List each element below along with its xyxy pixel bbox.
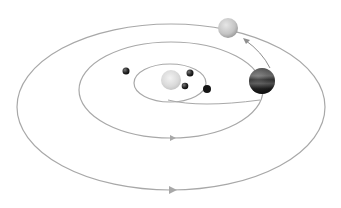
outer-planet-icon [218, 18, 238, 38]
middle-orbit-arrow-icon [170, 135, 176, 141]
planet-inner-bottom-icon [182, 83, 189, 90]
jupiter-shading [249, 68, 275, 94]
sun-icon [161, 70, 181, 90]
outer-orbit-arrow-icon [169, 186, 177, 194]
orbit-diagram [0, 0, 341, 208]
outer-orbit [17, 24, 325, 190]
planet-inner-top-icon [187, 70, 194, 77]
planet-inner-right-icon [203, 85, 211, 93]
planet-left-icon [123, 68, 130, 75]
